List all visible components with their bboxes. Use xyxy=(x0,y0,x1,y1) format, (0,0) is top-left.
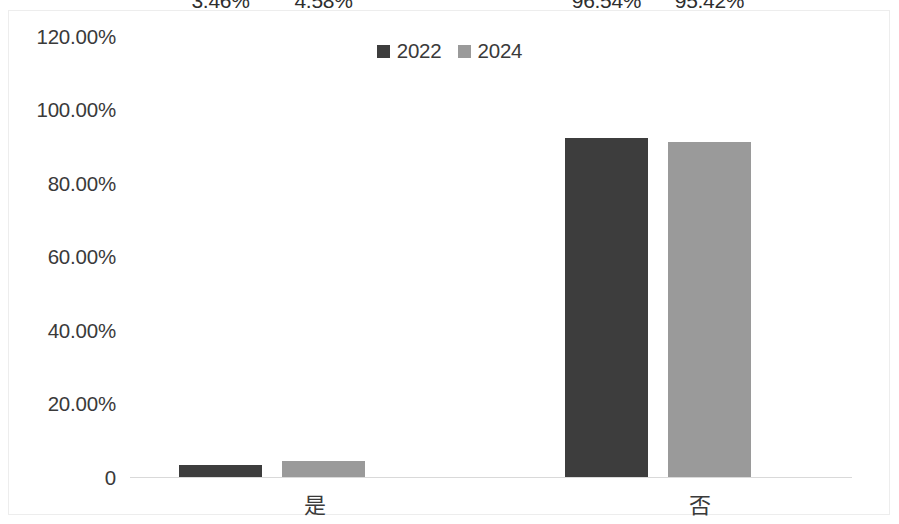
y-tick-label-40: 40.00% xyxy=(48,319,116,343)
bar-group-no: 96.54% 95.42% xyxy=(558,20,758,478)
bar-wrapper-no-2024: 95.42% xyxy=(668,20,751,478)
bar-value-label: 96.54% xyxy=(572,0,641,13)
bar-no-2022[interactable] xyxy=(565,138,648,478)
y-tick-label-100: 100.00% xyxy=(36,98,116,122)
bar-yes-2024[interactable] xyxy=(282,461,365,478)
y-tick-label-120: 120.00% xyxy=(36,25,116,49)
bar-chart: 120.00% 100.00% 80.00% 60.00% 40.00% 20.… xyxy=(0,0,899,524)
bar-wrapper-yes-2022: 3.46% xyxy=(179,20,262,478)
y-axis: 120.00% 100.00% 80.00% 60.00% 40.00% 20.… xyxy=(0,0,130,524)
bar-no-2024[interactable] xyxy=(668,142,751,478)
bar-group-yes: 3.46% 4.58% xyxy=(172,20,372,478)
bar-value-label: 3.46% xyxy=(191,0,249,13)
bar-wrapper-yes-2024: 4.58% xyxy=(282,20,365,478)
bar-wrapper-no-2022: 96.54% xyxy=(565,20,648,478)
y-tick-label-80: 80.00% xyxy=(48,172,116,196)
x-axis-category-label-no: 否 xyxy=(689,487,711,519)
y-tick-label-20: 20.00% xyxy=(48,392,116,416)
bar-value-label: 4.58% xyxy=(294,0,352,13)
y-tick-label-0: 0 xyxy=(105,466,116,490)
bar-value-label: 95.42% xyxy=(675,0,744,13)
y-tick-label-60: 60.00% xyxy=(48,245,116,269)
x-axis-line xyxy=(130,477,852,478)
x-axis-category-label-yes: 是 xyxy=(304,487,326,519)
plot-area: 3.46% 4.58% 96.54% 95.42% xyxy=(130,20,852,478)
